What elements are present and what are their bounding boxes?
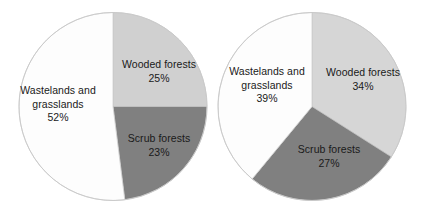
right-pie-svg: [211, 0, 422, 213]
pie-chart-figure: Wooded forests 25% Scrub forests 23% Was…: [0, 0, 422, 213]
pie-slice-scrub-forests[interactable]: [113, 107, 207, 200]
right-pie-chart: Wooded forests 34% Scrub forests 27% Was…: [211, 0, 422, 213]
left-pie-svg: [0, 0, 211, 213]
pie-slice-wastelands-and-grasslands[interactable]: [19, 13, 125, 201]
left-pie-chart: Wooded forests 25% Scrub forests 23% Was…: [0, 0, 211, 213]
pie-slice-wooded-forests[interactable]: [113, 13, 207, 107]
